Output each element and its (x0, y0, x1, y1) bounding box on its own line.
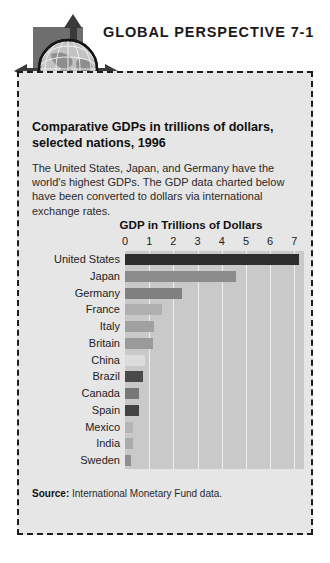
x-tick-7: 7 (285, 235, 303, 247)
bar-sweden (125, 455, 131, 466)
bar-label-canada: Canada (32, 385, 120, 402)
chart-row: United States (32, 251, 304, 268)
bar-label-germany: Germany (32, 285, 120, 302)
source-label: Source: (32, 488, 69, 499)
bar-label-italy: Italy (32, 318, 120, 335)
bar-brazil (125, 371, 143, 382)
x-tick-1: 1 (140, 235, 158, 247)
bar-japan (125, 271, 236, 282)
chart-row: Canada (32, 385, 304, 402)
bar-label-china: China (32, 352, 120, 369)
source-text: International Monetary Fund data. (72, 488, 222, 499)
x-tick-2: 2 (164, 235, 182, 247)
bar-india (125, 438, 133, 449)
chart-row: France (32, 301, 304, 318)
bar-label-brazil: Brazil (32, 368, 120, 385)
bar-canada (125, 388, 139, 399)
bar-italy (125, 321, 154, 332)
x-tick-0: 0 (116, 235, 134, 247)
chart-row: China (32, 352, 304, 369)
chart-title: GDP in Trillions of Dollars (32, 218, 304, 231)
bar-label-spain: Spain (32, 402, 120, 419)
chart-row: Germany (32, 285, 304, 302)
chart-row: Japan (32, 268, 304, 285)
x-tick-3: 3 (189, 235, 207, 247)
chart-row: Brazil (32, 368, 304, 385)
bar-label-britain: Britain (32, 335, 120, 352)
bar-label-france: France (32, 301, 120, 318)
bar-spain (125, 405, 139, 416)
chart-rows: United StatesJapanGermanyFranceItalyBrit… (32, 251, 304, 469)
x-tick-6: 6 (261, 235, 279, 247)
chart-row: Sweden (32, 452, 304, 469)
chart-row: Britain (32, 335, 304, 352)
bar-label-india: India (32, 435, 120, 452)
x-tick-5: 5 (237, 235, 255, 247)
chart-row: Mexico (32, 419, 304, 436)
bar-mexico (125, 422, 133, 433)
global-perspective-panel: Comparative GDPs in trillions of dollars… (17, 71, 313, 535)
bar-label-sweden: Sweden (32, 452, 120, 469)
chart-row: Italy (32, 318, 304, 335)
source-note: Source: International Monetary Fund data… (32, 488, 222, 499)
bar-china (125, 355, 145, 366)
x-tick-4: 4 (213, 235, 231, 247)
bar-germany (125, 288, 182, 299)
bar-britain (125, 338, 153, 349)
box-body-text: The United States, Japan, and Germany ha… (32, 161, 294, 218)
bar-label-united-states: United States (32, 251, 120, 268)
gdp-bar-chart: GDP in Trillions of Dollars 01234567 Uni… (32, 218, 304, 474)
page-title: GLOBAL PERSPECTIVE 7-1 (103, 24, 314, 40)
bar-label-japan: Japan (32, 268, 120, 285)
box-heading: Comparative GDPs in trillions of dollars… (32, 119, 300, 151)
bar-united-states (125, 254, 299, 265)
bar-label-mexico: Mexico (32, 419, 120, 436)
chart-row: India (32, 435, 304, 452)
chart-row: Spain (32, 402, 304, 419)
x-axis-ticks: 01234567 (125, 235, 304, 249)
bar-france (125, 304, 162, 315)
